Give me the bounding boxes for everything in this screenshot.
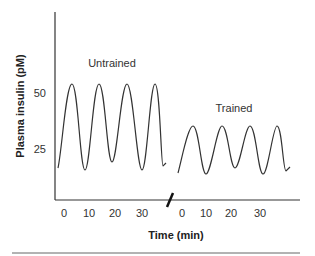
x-tick-left-20: 20	[109, 207, 121, 219]
x-tick-left-0: 0	[61, 207, 67, 219]
chart: Plasma insulin (pM) 50 25 Untrained Trai…	[0, 0, 315, 256]
y-tick-50: 50	[34, 87, 46, 99]
x-tick-right-20: 20	[225, 207, 237, 219]
y-axis-label: Plasma insulin (pM)	[14, 54, 26, 158]
x-tick-left-30: 30	[136, 207, 148, 219]
x-tick-right-30: 30	[254, 207, 266, 219]
y-tick-25: 25	[34, 143, 46, 155]
untrained-curve	[58, 84, 166, 170]
series-label-untrained: Untrained	[88, 57, 136, 69]
x-axis-label: Time (min)	[148, 229, 204, 241]
x-tick-right-0: 0	[179, 207, 185, 219]
x-tick-right-10: 10	[200, 207, 212, 219]
series-label-trained: Trained	[216, 102, 253, 114]
trained-curve	[178, 126, 290, 174]
x-tick-left-10: 10	[83, 207, 95, 219]
